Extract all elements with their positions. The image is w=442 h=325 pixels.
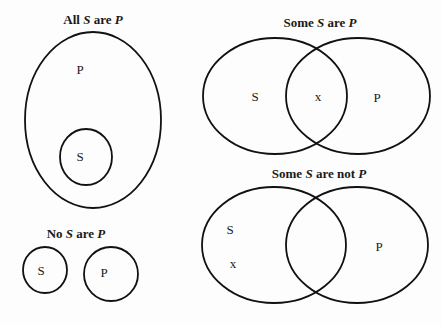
diagram-title: No S are P [47, 226, 107, 241]
set-p-label: P [375, 239, 382, 254]
set-s-label: S [76, 149, 83, 164]
set-s-circle [23, 247, 67, 293]
set-s-ellipse [202, 187, 346, 303]
venn-diagrams-canvas: All S are P P S Some S are P S x P Some … [0, 0, 442, 325]
set-p-circle [84, 247, 138, 301]
set-p-ellipse [25, 32, 161, 208]
overlap-x-mark: x [315, 89, 322, 104]
diagram-no-s-are-p: No S are P S P [23, 226, 138, 301]
diagram-some-s-are-p: Some S are P S x P [203, 15, 430, 154]
s-only-x-mark: x [230, 256, 237, 271]
set-s-label: S [37, 263, 44, 278]
set-p-label: P [373, 90, 380, 105]
set-p-ellipse [286, 187, 428, 303]
set-s-ellipse [203, 38, 347, 154]
set-s-label: S [226, 222, 233, 237]
set-p-label: P [76, 62, 83, 77]
diagram-some-s-are-not-p: Some S are not P S x P [202, 166, 428, 303]
set-s-circle [60, 129, 112, 185]
diagram-title: All S are P [63, 12, 123, 27]
diagram-title: Some S are not P [272, 166, 367, 181]
set-p-label: P [100, 265, 107, 280]
set-p-ellipse [286, 38, 430, 154]
venn-diagram-figure: All S are P P S Some S are P S x P Some … [0, 0, 442, 325]
diagram-all-s-are-p: All S are P P S [25, 12, 161, 208]
set-s-label: S [251, 89, 258, 104]
diagram-title: Some S are P [283, 15, 357, 30]
